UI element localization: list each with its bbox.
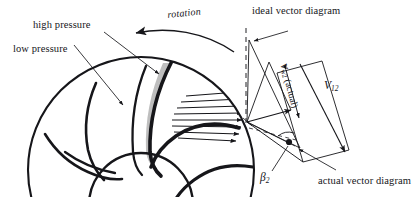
ideal-inner-apex-left [247, 62, 269, 122]
impeller-assembly [45, 61, 253, 197]
v12-subscript: 12 [331, 84, 339, 93]
v12-resultant-vector [300, 64, 345, 152]
impeller-blade [151, 124, 239, 167]
ideal-vector-diagram-leader [254, 31, 288, 41]
beta2-angle-arc [278, 132, 294, 136]
actual-diagram-lower-edge [247, 122, 303, 162]
v12-symbol: V [324, 79, 331, 91]
vw2-subscript: w2 [280, 69, 289, 79]
beta2-angle-dot [286, 139, 292, 145]
high-pressure-label: high pressure [33, 20, 91, 31]
actual-diagram-dashed-chord [249, 128, 296, 140]
low-pressure-label: low pressure [13, 44, 68, 55]
high-pressure-leader [104, 32, 159, 74]
actual-vector-diagram-label: actual vector diagram [318, 176, 411, 187]
actual-vector-diagram-leader [299, 149, 336, 170]
ideal-vector-diagram-label: ideal vector diagram [252, 6, 340, 17]
v12-label: V12 [324, 80, 339, 92]
rotation-arrow [136, 30, 234, 52]
ideal-triangle-left-side [247, 40, 249, 122]
figure-canvas: high pressure low pressure rotation idea… [0, 0, 419, 197]
impeller-blade [132, 66, 146, 175]
impeller-blade [172, 166, 253, 197]
beta2-label: β2 [260, 172, 269, 184]
beta2-subscript: 2 [266, 176, 270, 185]
